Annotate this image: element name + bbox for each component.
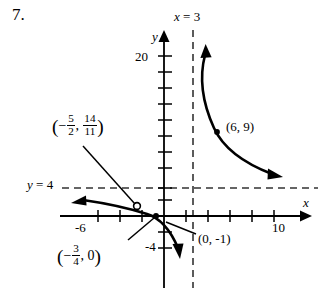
right-branch-curve [202, 55, 272, 174]
y-axis-arrowhead [159, 30, 170, 42]
point-label-x-intercept: (−34, 0) [57, 243, 101, 268]
xint-numerator: 3 [72, 243, 80, 255]
x-tick-label-10: 10 [272, 221, 285, 234]
point-label-hole: (−52, 1411) [52, 113, 104, 138]
point-marker-6-9 [214, 129, 220, 135]
horizontal-asymptote-label: y = 4 [27, 178, 53, 191]
graph-canvas [0, 0, 324, 294]
x-axis-label: x [303, 196, 309, 209]
x-axis-arrowhead [300, 211, 312, 222]
point-label-0-neg1: (0, -1) [198, 232, 231, 245]
right-branch-right-arrowhead [268, 169, 284, 180]
y-tick-label-neg4: -4 [145, 240, 156, 253]
y-tick-label-20: 20 [135, 50, 148, 63]
point-label-6-9: (6, 9) [226, 120, 254, 133]
xint-denominator: 4 [72, 255, 80, 268]
xint-tail: , 0 [81, 248, 95, 263]
x-tick-label-neg6: -6 [75, 221, 86, 234]
hole-x-denominator: 2 [67, 125, 75, 138]
hole-x-numerator: 5 [67, 113, 75, 125]
leader-line-hole [83, 146, 135, 204]
right-branch-up-arrowhead [200, 44, 211, 58]
left-branch-left-arrowhead [71, 196, 87, 206]
vertical-asymptote-label: x = 3 [174, 10, 200, 23]
y-axis-label: y [152, 30, 158, 43]
hole-y-numerator: 14 [83, 113, 97, 125]
hole-y-denominator: 11 [83, 125, 97, 138]
figure-page: 7. [0, 0, 324, 294]
left-branch-down-arrowhead [173, 244, 184, 260]
leader-line-x-intercept [128, 218, 154, 240]
y-axis-ticks [158, 56, 172, 248]
